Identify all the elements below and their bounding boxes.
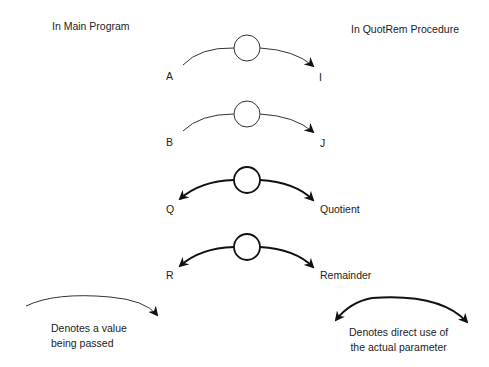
- value-arrow-b-j: [183, 101, 313, 132]
- legend-reference-arrow: [336, 297, 467, 322]
- header-main-program: In Main Program: [52, 20, 130, 32]
- value-arrow-a-i: [183, 35, 313, 66]
- legend-reference-line1: Denotes direct use of: [349, 325, 448, 340]
- label-r: R: [166, 269, 174, 281]
- label-remainder: Remainder: [320, 269, 371, 281]
- label-quotient: Quotient: [320, 203, 360, 215]
- legend-value-text: Denotes a value being passed: [51, 321, 127, 351]
- header-quotrem-procedure: In QuotRem Procedure: [351, 23, 459, 35]
- legend-value-line2: being passed: [51, 336, 127, 351]
- label-j: J: [320, 137, 325, 149]
- legend-value-arrow: [26, 296, 157, 315]
- legend-value-line1: Denotes a value: [51, 321, 127, 336]
- label-a: A: [166, 70, 173, 82]
- diagram-canvas: [0, 0, 489, 367]
- legend-reference-line2: the actual parameter: [349, 340, 448, 355]
- legend-reference-text: Denotes direct use of the actual paramet…: [349, 325, 448, 355]
- label-b: B: [166, 136, 173, 148]
- label-q: Q: [166, 203, 174, 215]
- reference-arrow-r-remainder: [180, 234, 313, 267]
- reference-arrow-q-quotient: [180, 167, 313, 200]
- label-i: I: [319, 71, 322, 83]
